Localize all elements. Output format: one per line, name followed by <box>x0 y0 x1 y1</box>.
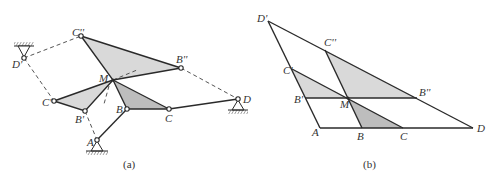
dashed-d1-c2 <box>24 36 81 58</box>
label-a: A <box>311 126 319 138</box>
label-a: A <box>86 136 94 148</box>
line-d1-a <box>268 21 320 128</box>
dashed-b2-d <box>181 68 238 99</box>
label-c1: C' <box>283 64 293 76</box>
link-c-d <box>169 99 238 109</box>
joint-c <box>167 107 171 111</box>
dashed-d1-c1 <box>24 58 54 101</box>
label-d1: D' <box>11 58 23 70</box>
label-m: M <box>98 72 109 84</box>
label-c1: C' <box>42 96 52 108</box>
diagram-canvas: C'' D' B'' M C' B' B C D A (a) D' C'' C'… <box>0 0 494 180</box>
triangle-c2-m-b2 <box>81 36 181 80</box>
label-d: D <box>476 122 485 134</box>
caption-b: (b) <box>363 158 376 171</box>
label-d1: D' <box>256 12 268 24</box>
joint-m <box>112 79 115 82</box>
label-b1: B' <box>75 113 85 125</box>
joint-b <box>125 107 129 111</box>
figure-b: D' C'' C' B' M B'' A B C D (b) <box>256 12 485 171</box>
label-c2: C'' <box>324 36 337 48</box>
joint-d <box>236 97 240 101</box>
label-d: D <box>242 93 251 105</box>
label-c2: C'' <box>72 26 85 38</box>
label-b: B <box>357 130 364 142</box>
triangle-c1-m-b1 <box>54 80 113 111</box>
label-b2: B'' <box>176 53 188 65</box>
label-b: B <box>116 103 123 115</box>
figure-a: C'' D' B'' M C' B' B C D A (a) <box>11 26 251 171</box>
ground-support-d1 <box>14 42 34 57</box>
joint-d1 <box>22 56 26 60</box>
label-c: C <box>400 130 408 142</box>
joint-a <box>95 138 99 142</box>
label-m: M <box>339 98 350 110</box>
caption-a: (a) <box>123 158 136 171</box>
joint-b2 <box>179 66 183 70</box>
label-c: C <box>165 112 173 124</box>
label-b1: B' <box>294 93 304 105</box>
label-b2: B'' <box>419 86 431 98</box>
joint-c1 <box>52 99 56 103</box>
